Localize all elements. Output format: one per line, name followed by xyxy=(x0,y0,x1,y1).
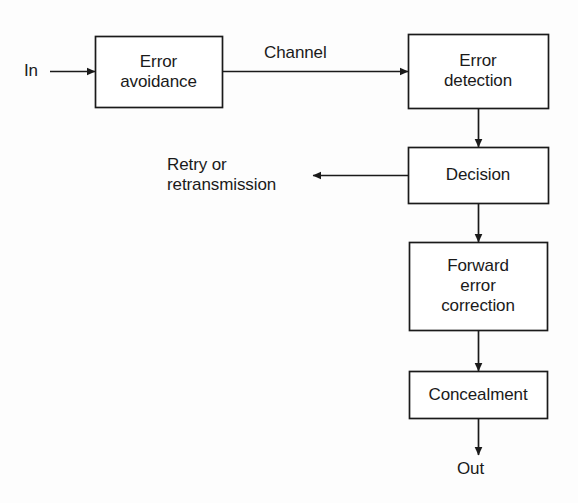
box-error-detection xyxy=(409,35,549,109)
diagram-vector-layer xyxy=(0,0,578,503)
box-decision xyxy=(409,148,549,204)
box-concealment xyxy=(410,372,548,419)
diagram-canvas: Error avoidance Error detection Decision… xyxy=(0,0,578,503)
box-error-avoidance xyxy=(96,37,223,108)
box-forward-error-correction xyxy=(410,243,548,331)
